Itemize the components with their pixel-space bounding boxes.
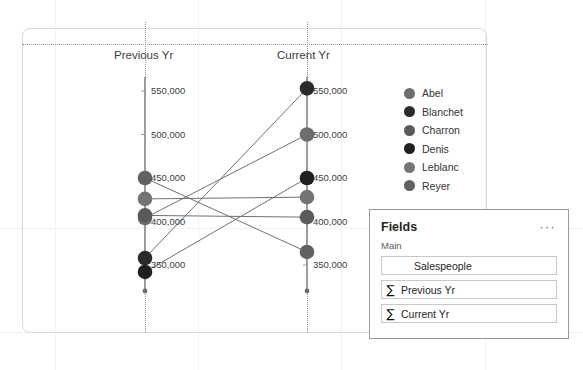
y-tick-label-previous-500000: 500,000 xyxy=(151,129,185,140)
legend-item-label: Charron xyxy=(422,125,460,136)
fields-section-label: Main xyxy=(381,240,557,251)
y-tick-label-previous-350000: 350,000 xyxy=(151,259,185,270)
y-tick-label-previous-550000: 550,000 xyxy=(151,85,185,96)
y-tick-label-previous-450000: 450,000 xyxy=(151,172,185,183)
y-tick-label-current-350000: 350,000 xyxy=(313,259,347,270)
y-tick-label-current-550000: 550,000 xyxy=(313,85,347,96)
fields-pane[interactable]: Fields ··· Main Salespeople ∑ Previous Y… xyxy=(369,209,569,339)
legend-item[interactable]: Denis xyxy=(404,140,484,159)
y-tick-label-current-450000: 450,000 xyxy=(313,172,347,183)
legend-item-label: Abel xyxy=(422,88,443,99)
field-item-label: Current Yr xyxy=(399,308,449,320)
legend-item-label: Leblanc xyxy=(422,162,459,173)
legend-item-label: Blanchet xyxy=(422,107,463,118)
sigma-icon: ∑ xyxy=(382,307,399,321)
y-tick-label-previous-400000: 400,000 xyxy=(151,216,185,227)
y-tick-label-current-400000: 400,000 xyxy=(313,216,347,227)
legend-color-swatch xyxy=(404,88,415,99)
legend-item-label: Denis xyxy=(422,144,449,155)
axis-title-previous-yr: Previous Yr xyxy=(114,49,173,61)
more-options-icon[interactable]: ··· xyxy=(539,221,558,233)
field-item-previous-yr[interactable]: ∑ Previous Yr xyxy=(381,280,557,299)
field-item-current-yr[interactable]: ∑ Current Yr xyxy=(381,304,557,323)
legend-color-swatch xyxy=(404,180,415,191)
field-item-label: Salespeople xyxy=(382,260,472,272)
legend-color-swatch xyxy=(404,162,415,173)
y-tick-label-current-500000: 500,000 xyxy=(313,129,347,140)
legend-item-label: Reyer xyxy=(422,181,450,192)
legend-item[interactable]: Reyer xyxy=(404,177,484,196)
legend-item[interactable]: Blanchet xyxy=(404,103,484,122)
field-item-salespeople[interactable]: Salespeople xyxy=(381,256,557,275)
legend-color-swatch xyxy=(404,143,415,154)
fields-pane-title: Fields xyxy=(381,220,417,234)
fields-pane-header: Fields ··· xyxy=(381,220,557,234)
axis-title-current-yr: Current Yr xyxy=(277,49,330,61)
legend-color-swatch xyxy=(404,125,415,136)
field-item-label: Previous Yr xyxy=(399,284,455,296)
legend-item[interactable]: Abel xyxy=(404,84,484,103)
legend-item[interactable]: Leblanc xyxy=(404,158,484,177)
legend-color-swatch xyxy=(404,106,415,117)
sigma-icon: ∑ xyxy=(382,283,399,297)
chart-legend: Abel Blanchet Charron Denis Leblanc Reye… xyxy=(404,84,484,195)
legend-item[interactable]: Charron xyxy=(404,121,484,140)
